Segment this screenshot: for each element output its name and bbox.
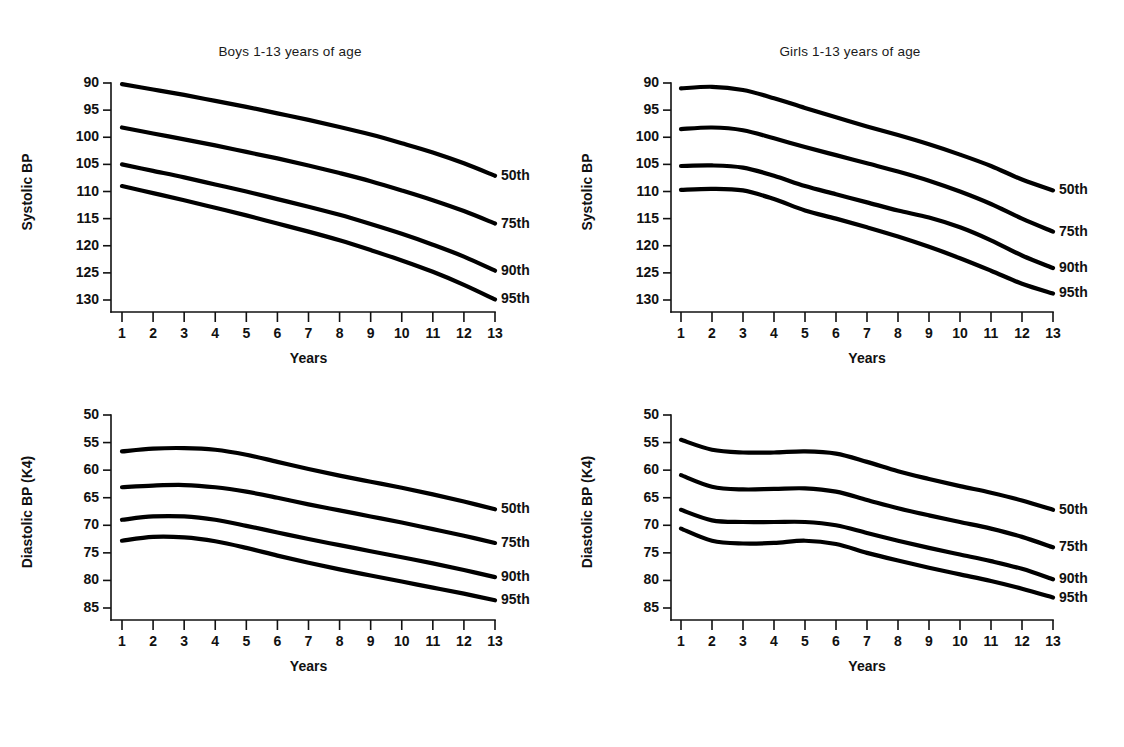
x-tick-label: 11: [413, 633, 453, 649]
y-tick-label: 115: [51, 210, 99, 226]
x-tick-label: 7: [289, 325, 329, 341]
y-tick-label: 60: [611, 461, 659, 477]
series-label-95th: 95th: [1059, 589, 1088, 605]
x-tick-label: 13: [475, 633, 515, 649]
x-tick-label: 2: [133, 325, 173, 341]
series-label-95th: 95th: [1059, 284, 1088, 300]
y-tick-label: 85: [611, 599, 659, 615]
percentile-curve-50th: [122, 84, 495, 176]
percentile-curve-75th: [681, 475, 1053, 547]
percentile-curve-75th: [681, 127, 1053, 231]
x-tick-label: 10: [940, 633, 980, 649]
y-axis-label-boys-diastolic: Diastolic BP (K4): [19, 455, 35, 568]
x-tick-label: 5: [226, 325, 266, 341]
x-tick-label: 6: [257, 633, 297, 649]
x-tick-label: 3: [723, 325, 763, 341]
y-tick-label: 115: [611, 210, 659, 226]
x-tick-label: 9: [351, 633, 391, 649]
x-tick-label: 11: [971, 633, 1011, 649]
percentile-curve-90th: [122, 516, 495, 577]
x-tick-label: 10: [940, 325, 980, 341]
y-tick-label: 70: [611, 516, 659, 532]
plot-area-girls-systolic: [0, 0, 1124, 747]
y-tick-label: 110: [611, 183, 659, 199]
plot-area-girls-diastolic: [0, 0, 1124, 747]
x-tick-label: 4: [195, 633, 235, 649]
y-tick-label: 105: [611, 155, 659, 171]
percentile-curve-50th: [681, 87, 1053, 191]
x-tick-label: 6: [816, 633, 856, 649]
chart-panel-boys-diastolic: 505560657075808512345678910111213YearsDi…: [0, 0, 1124, 747]
x-tick-label: 8: [320, 325, 360, 341]
y-tick-label: 90: [611, 74, 659, 90]
x-tick-label: 8: [320, 633, 360, 649]
x-tick-label: 9: [909, 325, 949, 341]
blood-pressure-percentile-figure: Boys 1-13 years of age909510010511011512…: [0, 0, 1124, 747]
x-tick-label: 2: [692, 325, 732, 341]
x-tick-label: 9: [351, 325, 391, 341]
x-tick-label: 13: [475, 325, 515, 341]
y-tick-label: 75: [51, 544, 99, 560]
series-label-95th: 95th: [501, 290, 530, 306]
x-tick-label: 6: [257, 325, 297, 341]
series-label-90th: 90th: [501, 568, 530, 584]
x-tick-label: 3: [723, 633, 763, 649]
x-tick-label: 5: [785, 325, 825, 341]
y-tick-label: 50: [51, 406, 99, 422]
x-tick-label: 3: [164, 633, 204, 649]
x-tick-label: 10: [382, 633, 422, 649]
y-tick-label: 130: [611, 291, 659, 307]
series-label-90th: 90th: [501, 262, 530, 278]
y-tick-label: 65: [611, 489, 659, 505]
percentile-curve-95th: [122, 186, 495, 299]
y-tick-label: 125: [611, 264, 659, 280]
y-tick-label: 95: [611, 101, 659, 117]
x-tick-label: 3: [164, 325, 204, 341]
x-tick-label: 1: [102, 325, 142, 341]
x-tick-label: 2: [133, 633, 173, 649]
x-tick-label: 1: [661, 325, 701, 341]
x-tick-label: 2: [692, 633, 732, 649]
series-label-75th: 75th: [501, 215, 530, 231]
y-axis-label-girls-diastolic: Diastolic BP (K4): [579, 455, 595, 568]
y-tick-label: 55: [611, 434, 659, 450]
percentile-curve-50th: [681, 440, 1053, 510]
series-label-75th: 75th: [501, 534, 530, 550]
y-tick-label: 100: [51, 128, 99, 144]
y-tick-label: 130: [51, 291, 99, 307]
x-tick-label: 12: [1002, 325, 1042, 341]
x-tick-label: 4: [754, 633, 794, 649]
percentile-curve-90th: [681, 510, 1053, 579]
x-tick-label: 8: [878, 325, 918, 341]
chart-panel-girls-systolic: Girls 1-13 years of age90951001051101151…: [0, 0, 1124, 747]
x-tick-label: 12: [444, 325, 484, 341]
series-label-50th: 50th: [1059, 181, 1088, 197]
y-tick-label: 105: [51, 155, 99, 171]
chart-title-girls-systolic: Girls 1-13 years of age: [700, 44, 1000, 59]
plot-area-boys-systolic: [0, 0, 1124, 747]
y-tick-label: 120: [611, 237, 659, 253]
y-tick-label: 85: [51, 599, 99, 615]
y-tick-label: 110: [51, 183, 99, 199]
x-tick-label: 13: [1033, 325, 1073, 341]
percentile-curve-90th: [122, 164, 495, 270]
x-tick-label: 8: [878, 633, 918, 649]
y-tick-label: 75: [611, 544, 659, 560]
x-axis-label-boys-systolic: Years: [229, 350, 389, 366]
series-label-95th: 95th: [501, 591, 530, 607]
percentile-curve-95th: [122, 537, 495, 601]
y-tick-label: 65: [51, 489, 99, 505]
y-tick-label: 95: [51, 101, 99, 117]
chart-title-boys-systolic: Boys 1-13 years of age: [140, 44, 440, 59]
x-axis-label-girls-diastolic: Years: [787, 658, 947, 674]
x-tick-label: 12: [444, 633, 484, 649]
x-tick-label: 13: [1033, 633, 1073, 649]
series-label-50th: 50th: [1059, 501, 1088, 517]
y-tick-label: 55: [51, 434, 99, 450]
percentile-curve-95th: [681, 529, 1053, 598]
x-tick-label: 11: [413, 325, 453, 341]
x-axis-label-girls-systolic: Years: [787, 350, 947, 366]
series-label-50th: 50th: [501, 167, 530, 183]
percentile-curve-50th: [122, 448, 495, 509]
y-tick-label: 80: [51, 571, 99, 587]
